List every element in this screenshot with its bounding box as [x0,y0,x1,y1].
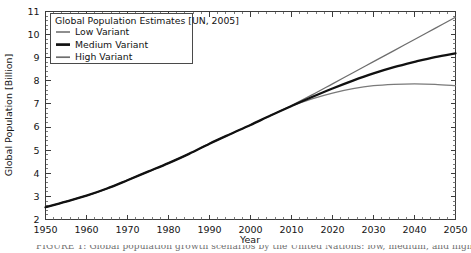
y-axis-title: Global Population [Billion] [3,54,14,177]
x-tick-label: 1960 [74,224,98,235]
x-tick-label: 1990 [197,224,221,235]
x-tick-label: 2020 [320,224,344,235]
x-tick-label: 1980 [156,224,180,235]
legend-label-medium-variant: Medium Variant [75,39,148,50]
legend-label-low-variant: Low Variant [75,26,130,37]
y-tick-label: 11 [27,6,39,17]
y-tick-label: 10 [27,29,39,40]
figure-caption: FIGURE 1: Global population growth scena… [36,245,466,251]
y-tick-label: 7 [33,98,39,109]
x-tick-label: 2010 [279,224,303,235]
x-tick-label: 2030 [361,224,385,235]
x-tick-label: 2040 [402,224,426,235]
x-axis-title: Year [239,234,260,245]
legend-title: Global Population Estimates [UN, 2005] [55,15,239,26]
y-tick-label: 4 [33,168,39,179]
population-line-chart: 234567891011 195019601970198019902000201… [0,0,471,253]
legend-label-high-variant: High Variant [75,51,133,62]
y-tick-label: 8 [33,75,39,86]
x-tick-label: 1970 [115,224,139,235]
y-tick-label: 9 [33,52,39,63]
y-tick-label: 5 [33,145,39,156]
y-tick-label: 6 [33,121,39,132]
x-tick-label: 2000 [238,224,262,235]
x-tick-label: 2050 [443,224,467,235]
y-tick-label: 3 [33,191,39,202]
x-tick-label: 1950 [33,224,57,235]
figure-caption-strip: FIGURE 1: Global population growth scena… [0,245,471,253]
figure-container: 234567891011 195019601970198019902000201… [0,0,471,253]
